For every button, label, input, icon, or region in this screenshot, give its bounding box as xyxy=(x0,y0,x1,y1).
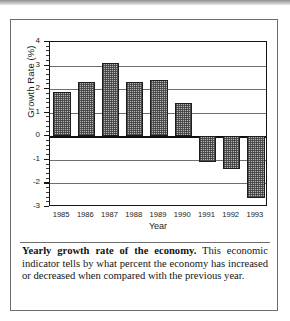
y-tick-major xyxy=(44,206,49,207)
y-tick-label: -3 xyxy=(14,201,40,210)
caption-lead: Yearly growth rate of the economy. xyxy=(22,245,196,256)
y-tick-label: 2 xyxy=(14,83,40,92)
gridline xyxy=(50,183,266,184)
bar-1988 xyxy=(126,82,143,136)
figure-caption: Yearly growth rate of the economy. This … xyxy=(11,242,279,310)
caption-paragraph: Yearly growth rate of the economy. This … xyxy=(22,245,268,283)
plot-inner xyxy=(50,42,266,205)
bar-1991 xyxy=(199,136,216,162)
x-tick-label-1993: 1993 xyxy=(240,210,270,219)
bar-1986 xyxy=(78,82,95,136)
y-tick-label: 3 xyxy=(14,60,40,69)
bar-1985 xyxy=(53,92,70,137)
figure-frame: Growth Rate (%) 43210-1-2-3 198519861987… xyxy=(10,19,278,311)
bar-1990 xyxy=(175,103,192,136)
scan-edge-band xyxy=(0,0,290,5)
y-tick-label: -1 xyxy=(14,154,40,163)
bar-1987 xyxy=(102,63,119,136)
y-tick-label: -2 xyxy=(14,177,40,186)
y-tick-label: 0 xyxy=(14,130,40,139)
bar-1992 xyxy=(223,136,240,169)
bar-1993 xyxy=(247,136,264,197)
x-axis-title: Year xyxy=(49,221,267,231)
bar-1989 xyxy=(150,80,167,137)
bar-chart: Growth Rate (%) 43210-1-2-3 198519861987… xyxy=(11,20,279,238)
y-tick-label: 1 xyxy=(14,107,40,116)
gridline xyxy=(50,66,266,67)
y-tick-label: 4 xyxy=(14,36,40,45)
plot-area xyxy=(49,41,267,206)
